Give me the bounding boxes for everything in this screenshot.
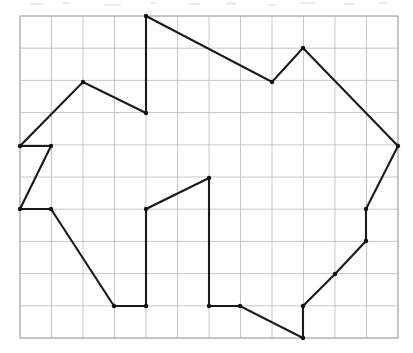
polygon-vertex-dot <box>18 144 22 148</box>
polygon-vertex-dot <box>396 144 400 148</box>
polygon-vertex-dot <box>112 304 116 308</box>
polygon-vertex-dot <box>238 304 242 308</box>
figure-canvas <box>0 0 413 353</box>
polygon-vertex-dot <box>364 207 368 211</box>
polygon-vertex-dot <box>144 304 148 308</box>
polygon-vertex-dot <box>49 207 53 211</box>
polygon-vertex-dot <box>49 144 53 148</box>
polygon-vertex-dot <box>207 176 211 180</box>
polygon-grid-figure <box>0 0 413 353</box>
polygon-vertex-dot <box>144 207 148 211</box>
polygon-vertex-dot <box>301 46 305 50</box>
polygon-vertex-dot <box>144 111 148 115</box>
polygon-vertex-dot <box>270 80 274 84</box>
polygon-vertex-dot <box>18 207 22 211</box>
polygon-vertex-dot <box>144 14 148 18</box>
polygon-vertex-dot <box>301 304 305 308</box>
figure-background <box>0 0 413 353</box>
polygon-vertex-dot <box>333 272 337 276</box>
polygon-vertex-dot <box>207 304 211 308</box>
polygon-vertex-dot <box>364 239 368 243</box>
polygon-vertex-dot <box>81 80 85 84</box>
polygon-vertex-dot <box>301 336 305 340</box>
